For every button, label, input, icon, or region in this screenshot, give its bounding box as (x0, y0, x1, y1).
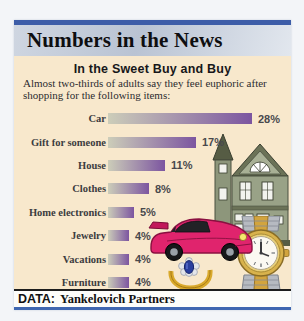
page-background: { "masthead": { "title": "Numbers in the… (0, 0, 304, 321)
chart-area: In the Sweet Buy and Buy Almost two-thir… (14, 56, 291, 289)
bar-row: Furniture4% (14, 271, 291, 289)
value-label: 17% (202, 136, 224, 148)
infographic-panel: Numbers in the News In the Sweet Buy and… (14, 20, 291, 310)
bar-rows: Car28%Gift for someone17%House11%Clothes… (14, 107, 291, 289)
masthead: Numbers in the News (14, 25, 291, 56)
bar-row: Jewelry4% (14, 224, 291, 247)
bar-row: Car28% (14, 107, 291, 130)
chart-subtitle-line1: Almost two-thirds of adults say they fee… (23, 78, 291, 90)
bar-row: House11% (14, 154, 291, 177)
data-label: DATA: (18, 292, 55, 306)
category-label: House (16, 160, 106, 171)
category-label: Home electronics (16, 207, 106, 218)
chart-subtitle-line2: shopping for the following items: (23, 90, 291, 102)
bar-row: Gift for someone17% (14, 130, 291, 153)
value-label: 4% (135, 276, 151, 288)
value-label: 5% (140, 206, 156, 218)
value-label: 4% (135, 253, 151, 265)
category-label: Jewelry (16, 230, 106, 241)
value-label: 8% (155, 183, 171, 195)
value-label: 28% (258, 113, 280, 125)
bar (108, 254, 129, 265)
chart-subtitle: Almost two-thirds of adults say they fee… (23, 78, 291, 101)
bar (108, 277, 129, 288)
bar-row: Vacations4% (14, 247, 291, 270)
chart-title: In the Sweet Buy and Buy (14, 62, 291, 76)
source-line: DATA: Yankelovich Partners (14, 289, 291, 310)
category-label: Gift for someone (16, 137, 106, 148)
category-label: Vacations (16, 254, 106, 265)
bar-row: Home electronics5% (14, 201, 291, 224)
category-label: Car (16, 113, 106, 124)
bar (108, 183, 149, 194)
masthead-title: Numbers in the News (27, 28, 223, 53)
bar (108, 137, 196, 148)
value-label: 4% (135, 230, 151, 242)
bar-row: Clothes8% (14, 177, 291, 200)
bar (108, 207, 134, 218)
value-label: 11% (171, 159, 192, 171)
category-label: Furniture (16, 277, 106, 288)
bar (108, 230, 129, 241)
data-source: Yankelovich Partners (60, 292, 175, 307)
category-label: Clothes (16, 183, 106, 194)
bar (108, 160, 165, 171)
bar (108, 113, 252, 124)
